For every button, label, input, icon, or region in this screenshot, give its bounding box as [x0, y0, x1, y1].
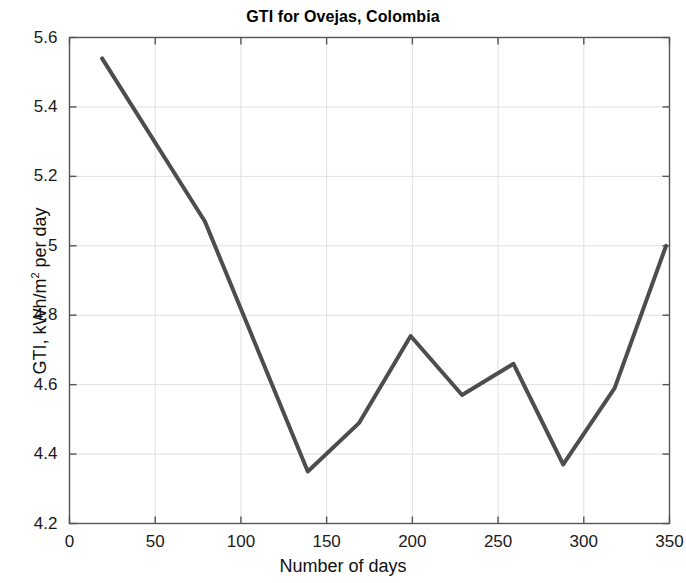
x-tick-label: 200 — [398, 532, 426, 552]
x-tick-label: 0 — [65, 532, 74, 552]
x-tick-label: 150 — [312, 532, 340, 552]
y-axis-label-suffix: per day — [30, 207, 50, 272]
plot-area — [0, 0, 686, 583]
y-tick-label: 4.4 — [0, 444, 58, 464]
data-series-group — [102, 58, 666, 471]
y-axis-label: GTI, kWh/m2 per day — [29, 141, 51, 441]
y-tick-label: 5.4 — [0, 97, 58, 117]
y-tick-label: 5.6 — [0, 28, 58, 48]
x-tick-label: 50 — [146, 532, 165, 552]
x-axis-label: Number of days — [0, 556, 686, 577]
chart-figure: GTI for Ovejas, Colombia 4.24.44.64.855.… — [0, 0, 686, 583]
y-tick-label: 4.2 — [0, 514, 58, 534]
tick-marks — [70, 38, 670, 524]
y-axis-label-prefix: GTI, kWh/m — [30, 279, 50, 375]
x-tick-label: 350 — [655, 532, 683, 552]
x-tick-label: 300 — [570, 532, 598, 552]
grid-lines — [70, 38, 670, 524]
data-line-gti — [102, 58, 666, 471]
y-axis-label-exponent: 2 — [29, 272, 41, 278]
x-tick-label: 100 — [227, 532, 255, 552]
x-tick-label: 250 — [484, 532, 512, 552]
axes-frame — [70, 38, 670, 524]
